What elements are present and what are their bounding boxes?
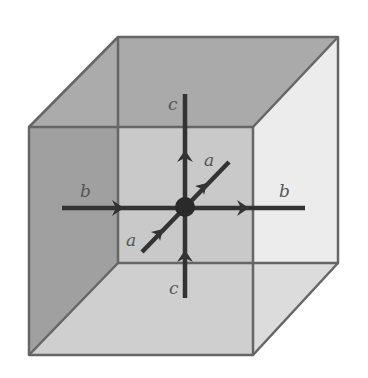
label-a-upper: a — [204, 150, 214, 170]
cube-diagram: b b c c a a — [0, 0, 368, 378]
label-a-lower: a — [126, 230, 136, 250]
label-b-left: b — [80, 181, 91, 201]
label-c-top: c — [168, 94, 178, 114]
label-b-right: b — [279, 181, 290, 201]
cube-diagram-svg: b b c c a a — [0, 0, 368, 378]
label-c-bottom: c — [169, 278, 179, 298]
center-vertex — [175, 197, 195, 217]
